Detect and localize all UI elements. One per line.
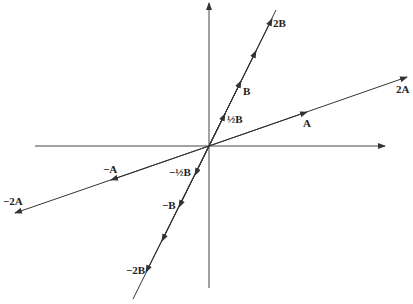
label-B: B bbox=[243, 86, 250, 97]
label-2A: 2A bbox=[396, 84, 409, 95]
label-half-B: ½B bbox=[227, 114, 243, 125]
label-neg-B: −B bbox=[162, 200, 176, 211]
label-neg-A: −A bbox=[103, 164, 117, 175]
diagram-graphics bbox=[0, 0, 413, 304]
vector-diagram: 2B B ½B 2A A −A −2A −½B −B −2B bbox=[0, 0, 413, 304]
label-2B: 2B bbox=[273, 18, 286, 29]
label-neg-half-B: −½B bbox=[169, 167, 191, 178]
label-neg-2A: −2A bbox=[3, 196, 23, 207]
label-neg-2B: −2B bbox=[126, 265, 145, 276]
label-A: A bbox=[303, 118, 311, 129]
